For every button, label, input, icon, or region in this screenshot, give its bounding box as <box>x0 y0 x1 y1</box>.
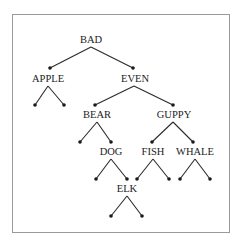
node-elk: ELK <box>117 184 137 195</box>
node-dog: DOG <box>100 147 123 158</box>
tree-edges <box>0 0 237 250</box>
node-whale: WHALE <box>176 147 214 158</box>
node-even: EVEN <box>121 74 149 85</box>
node-bad: BAD <box>80 35 102 46</box>
node-bear: BEAR <box>83 110 111 121</box>
node-guppy: GUPPY <box>157 110 191 121</box>
node-fish: FISH <box>142 147 165 158</box>
node-apple: APPLE <box>32 74 64 85</box>
